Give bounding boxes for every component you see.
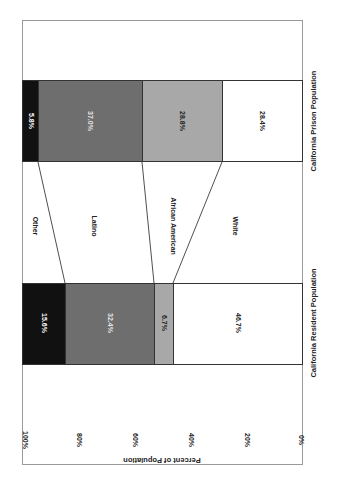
tick-label: 80%	[76, 433, 83, 447]
series-label-african-american: African American	[170, 197, 177, 255]
value-label: 6.7%	[161, 315, 168, 331]
tick-label: 100%	[22, 431, 29, 449]
tick-label: 20%	[244, 433, 251, 447]
tick-label: 60%	[132, 433, 139, 447]
tick-label: 0%	[298, 435, 305, 445]
series-label-latino: Latino	[91, 216, 98, 237]
tick-label: 40%	[188, 433, 195, 447]
value-label: 37.0%	[87, 111, 94, 131]
value-label: 15.6%	[41, 313, 48, 333]
series-connector-lines	[0, 0, 337, 481]
value-label: 32.4%	[107, 313, 114, 333]
value-label: 46.7%	[235, 313, 242, 333]
category-label-resident: California Resident Population	[309, 268, 318, 377]
value-label: 28.8%	[179, 111, 186, 131]
category-label-prison: California Prison Population	[309, 71, 318, 172]
series-label-other: Other	[32, 217, 39, 236]
value-label: 28.4%	[259, 111, 266, 131]
series-label-white: White	[232, 216, 239, 235]
value-label: 5.8%	[28, 113, 35, 129]
y-axis-title: Percent of Population	[123, 456, 201, 465]
